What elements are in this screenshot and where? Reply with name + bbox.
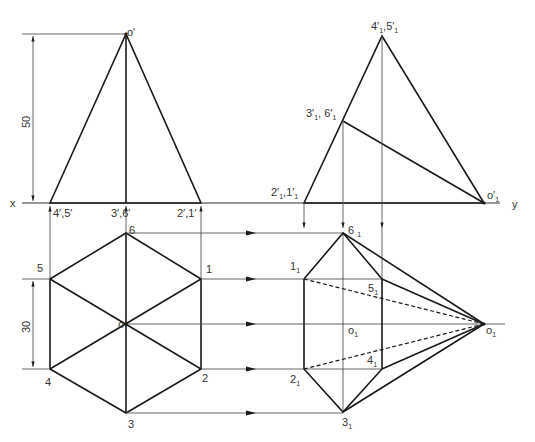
aux-vertex-label-2: 21: [290, 373, 300, 387]
mid-label-aux-front: 3′1, 6′1: [306, 107, 336, 121]
center-label: o: [118, 318, 124, 330]
aux-vertex-label-4: 41: [367, 354, 377, 368]
svg-text:4′1,5′1: 4′1,5′1: [371, 20, 398, 34]
front-view: [22, 34, 201, 203]
apex-label-front: o′: [127, 26, 135, 38]
aux-vertex-label-5: 51: [368, 282, 378, 296]
hidden-edge: [304, 279, 484, 324]
apex-label-aux-front-top: 4′1,5′1: [371, 20, 398, 34]
aux-vertex-label-6: 61: [348, 224, 361, 238]
auxiliary-front-view: [304, 36, 484, 228]
svg-text:o′1: o′1: [487, 189, 499, 203]
projector-lines-horizontal: [126, 231, 505, 416]
base-label-aux-front: 2′1,1′1: [271, 186, 298, 200]
vertex-label-5: 5: [37, 262, 43, 274]
projection-drawing: x y 50 30 o′ 4′,5′ 3′,6′ 2′,1′ o 1 2 3 4…: [0, 0, 535, 442]
apex-label-aux-front: o′1: [487, 189, 499, 203]
base-label-21: 2′,1′: [177, 207, 196, 219]
vertex-label-3: 3: [128, 418, 134, 430]
base-label-45: 4′,5′: [53, 207, 72, 219]
x-axis-label: x: [10, 197, 16, 209]
aux-center-label: o1: [348, 324, 358, 338]
y-axis-label: y: [512, 198, 518, 210]
auxiliary-top-view: [304, 228, 484, 413]
vertex-label-4: 4: [45, 376, 51, 388]
height-dimension-label: 50: [20, 116, 32, 128]
aux-vertex-label-1: 11: [290, 260, 300, 274]
aux-vertex-label-3: 31: [342, 416, 352, 430]
vertex-label-1: 1: [206, 263, 212, 275]
side-dimension-label: 30: [20, 321, 32, 333]
svg-text:2′1,1′1: 2′1,1′1: [271, 186, 298, 200]
labels: x y 50 30 o′ 4′,5′ 3′,6′ 2′,1′ o 1 2 3 4…: [10, 20, 518, 430]
hidden-edge: [304, 324, 484, 369]
vertex-label-6: 6: [129, 224, 135, 236]
svg-text:3′1, 6′1: 3′1, 6′1: [306, 107, 336, 121]
aux-apex-label: o1: [486, 324, 496, 338]
vertex-label-2: 2: [202, 372, 208, 384]
base-label-36: 3′,6′: [111, 207, 130, 219]
tilted-triangle: [304, 36, 484, 203]
